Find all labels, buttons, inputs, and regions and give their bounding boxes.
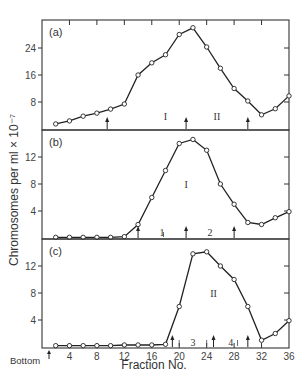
y-axis-label: Chromosomes per ml × 10⁻⁷ (4, 60, 24, 320)
data-point (54, 343, 58, 347)
region-label: 4 (228, 337, 233, 348)
data-point (163, 342, 167, 346)
y-tick-label: 8 (30, 288, 36, 299)
panel-c: 4812(c)II344812162024283236 (25, 239, 295, 362)
bottom-arrow-icon (47, 350, 51, 354)
panel-b: 4812(b)I12 (25, 130, 291, 240)
data-point (273, 107, 277, 111)
y-tick-label: 8 (30, 179, 36, 190)
data-point (67, 343, 71, 347)
data-point (232, 86, 236, 90)
panel-a: 81624(a)III (25, 20, 291, 130)
data-point (136, 73, 140, 77)
data-point (163, 168, 167, 172)
data-point (150, 195, 154, 199)
data-point (150, 343, 154, 347)
y-tick-label: 4 (30, 315, 36, 326)
data-point (191, 137, 195, 141)
region-label: 3 (190, 337, 195, 348)
data-point (259, 222, 263, 226)
data-point (177, 32, 181, 36)
data-point (122, 234, 126, 238)
data-point (204, 148, 208, 152)
arrow-up-icon (184, 117, 188, 122)
data-point (218, 182, 222, 186)
data-point (122, 343, 126, 347)
data-line (56, 252, 289, 346)
data-point (259, 338, 263, 342)
data-point (287, 94, 291, 98)
data-point (218, 66, 222, 70)
region-label: 2 (208, 227, 213, 238)
panel-label: (a) (49, 26, 62, 38)
data-point (81, 343, 85, 347)
data-point (95, 111, 99, 115)
data-point (273, 331, 277, 335)
bottom-label: Bottom (10, 355, 40, 366)
data-point (246, 99, 250, 103)
region-label: I (184, 179, 187, 190)
data-point (218, 264, 222, 268)
y-tick-label: 12 (25, 152, 37, 163)
data-point (204, 45, 208, 49)
data-point (150, 61, 154, 65)
data-point (108, 343, 112, 347)
data-point (191, 26, 195, 30)
region-label: I (164, 111, 167, 122)
data-point (246, 220, 250, 224)
data-point (232, 202, 236, 206)
arrow-up-icon (232, 226, 236, 231)
data-point (122, 102, 126, 106)
data-point (273, 216, 277, 220)
arrow-up-icon (212, 335, 216, 340)
arrow-up-icon (170, 335, 174, 340)
region-label: II (214, 111, 221, 122)
y-tick-label: 16 (25, 70, 37, 81)
data-point (287, 318, 291, 322)
data-line (56, 139, 289, 237)
data-point (95, 343, 99, 347)
data-point (287, 209, 291, 213)
y-tick-label: 12 (25, 261, 37, 272)
data-point (177, 141, 181, 145)
data-point (67, 119, 71, 123)
data-point (81, 114, 85, 118)
y-tick-label: 24 (25, 43, 37, 54)
arrow-up-icon (246, 117, 250, 122)
region-label: II (210, 288, 217, 299)
panel-label: (b) (49, 136, 62, 148)
data-point (54, 122, 58, 126)
data-point (232, 277, 236, 281)
arrow-up-icon (184, 226, 188, 231)
data-point (191, 252, 195, 256)
data-line (56, 28, 289, 124)
data-point (177, 304, 181, 308)
data-point (163, 53, 167, 57)
chart-figure: 81624(a)III4812(b)I124812(c)II3448121620… (0, 0, 308, 387)
x-axis-label: Fraction No. (0, 358, 308, 372)
arrow-up-icon (105, 117, 109, 122)
data-point (204, 250, 208, 254)
data-point (246, 304, 250, 308)
arrow-up-icon (246, 335, 250, 340)
data-point (259, 113, 263, 117)
y-tick-label: 4 (30, 206, 36, 217)
y-tick-label: 8 (30, 97, 36, 108)
data-point (108, 107, 112, 111)
panel-label: (c) (49, 245, 62, 257)
data-point (136, 343, 140, 347)
